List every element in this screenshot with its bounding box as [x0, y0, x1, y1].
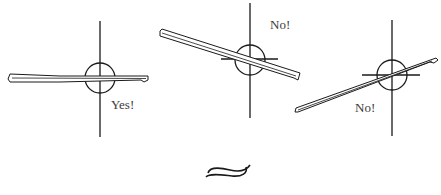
diagram-tilted-up	[295, 20, 438, 136]
diagram-level	[8, 21, 148, 137]
verdict-label-no: No!	[270, 17, 290, 33]
verdict-label-no: No!	[355, 100, 375, 116]
flourish-ornament-icon	[206, 165, 250, 177]
verdict-label-yes: Yes!	[111, 97, 134, 113]
diagram-canvas	[0, 0, 441, 195]
